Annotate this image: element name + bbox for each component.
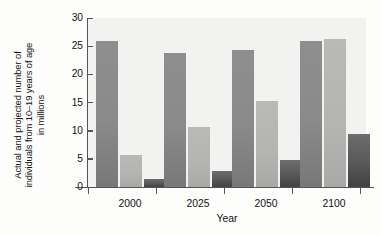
bar-2050-3 <box>280 160 302 187</box>
bars-layer <box>88 18 366 187</box>
bar-2000-2 <box>120 155 142 187</box>
bar-2025-3 <box>212 171 234 187</box>
x-tick-mark <box>88 188 89 194</box>
bar-2100-3 <box>348 134 370 187</box>
x-tick-mark <box>360 188 361 194</box>
bar-2050-0 <box>232 50 254 187</box>
bar-2000-0 <box>96 41 118 187</box>
bar-2025-0 <box>164 53 186 187</box>
x-tick-mark <box>224 188 225 194</box>
bar-2050-2 <box>256 101 278 187</box>
y-tick-label: 15 <box>59 97 83 109</box>
y-tick-label: 25 <box>59 40 83 52</box>
y-tick-label: 20 <box>59 68 83 80</box>
y-axis-title-container: Actual and projected number of individua… <box>0 0 58 200</box>
y-axis-title: Actual and projected number of individua… <box>0 15 58 215</box>
x-tick-label-2000: 2000 <box>100 197 160 210</box>
y-tick-label: 10 <box>59 125 83 137</box>
bar-2025-2 <box>188 127 210 187</box>
chart-figure: Actual and projected number of individua… <box>0 0 381 235</box>
x-axis-title: Year <box>88 213 366 224</box>
x-tick-label-2100: 2100 <box>304 197 364 210</box>
bar-2100-2 <box>324 39 346 187</box>
y-tick-label: 30 <box>59 12 83 24</box>
x-tick-label-2050: 2050 <box>236 197 296 210</box>
y-tick-label: 5 <box>59 153 83 165</box>
bar-2100-0 <box>300 41 322 187</box>
y-tick-label: 0 <box>59 181 83 193</box>
x-tick-mark <box>156 188 157 194</box>
x-tick-label-2025: 2025 <box>168 197 228 210</box>
x-tick-mark <box>292 188 293 194</box>
bar-2000-3 <box>144 179 166 187</box>
